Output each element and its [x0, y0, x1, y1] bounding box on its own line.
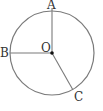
label-o: O [41, 41, 51, 55]
label-a: A [46, 0, 56, 12]
circle-diagram: A B C O [0, 0, 103, 111]
label-c: C [74, 90, 83, 104]
label-b: B [0, 46, 9, 60]
radius-oc [52, 53, 73, 90]
